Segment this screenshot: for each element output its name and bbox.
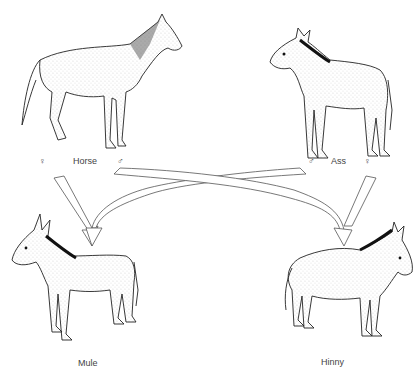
ass-female-symbol: ♀ (364, 156, 371, 166)
hinny-illustration (285, 222, 412, 336)
horse-label: Horse (73, 156, 97, 166)
ass-label: Ass (331, 156, 346, 166)
mule-illustration (12, 214, 138, 340)
ass-illustration (270, 28, 392, 158)
arrow-ass-female-to-hinny (344, 176, 376, 226)
horse-male-symbol: ♂ (117, 156, 124, 166)
horse-illustration (22, 14, 182, 148)
mule-label: Mule (78, 358, 98, 368)
hinny-label: Hinny (321, 357, 344, 367)
horse-female-symbol: ♀ (39, 156, 46, 166)
arrow-horse-male-to-hinny (114, 168, 344, 230)
diagram-drawing (0, 0, 420, 373)
hybrid-cross-diagram: ♀ Horse ♂ ♂ Ass ♀ Mule Hinny (0, 0, 420, 373)
cross-arrows (54, 168, 376, 246)
ass-male-symbol: ♂ (308, 156, 315, 166)
